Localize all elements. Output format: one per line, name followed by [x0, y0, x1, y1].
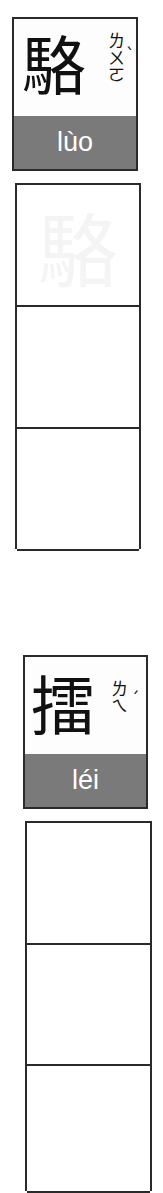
practice-cell[interactable] [17, 307, 139, 429]
character-card-1: 駱 ㄌ ㄨ ㄛ ˋ lùo [12, 17, 138, 171]
pinyin-label: léi [72, 765, 99, 796]
practice-grid-2 [25, 821, 152, 1191]
zhuyin-annotation: ㄌ ㄟ [111, 681, 128, 715]
zhuyin-annotation: ㄌ ㄨ ㄛ [108, 33, 125, 84]
practice-cell[interactable] [27, 1066, 150, 1193]
practice-grid-1: 駱 [15, 183, 141, 549]
hanzi-character: 擂 [31, 675, 95, 739]
character-area: 擂 ㄌ ㄟ ˊ [25, 657, 146, 757]
practice-cell[interactable] [27, 945, 150, 1066]
practice-cell[interactable] [27, 823, 150, 945]
character-area: 駱 ㄌ ㄨ ㄛ ˋ [14, 19, 136, 118]
practice-cell[interactable]: 駱 [17, 185, 139, 307]
ghost-trace-character: 駱 [17, 185, 139, 305]
hanzi-character: 駱 [22, 35, 86, 99]
pinyin-label: lùo [57, 127, 93, 158]
zhuyin-symbol: ㄟ [111, 698, 128, 715]
tone-mark: ˋ [126, 47, 135, 64]
character-card-2: 擂 ㄌ ㄟ ˊ léi [23, 655, 148, 809]
pinyin-band: lùo [14, 116, 136, 169]
practice-cell[interactable] [17, 429, 139, 551]
zhuyin-symbol: ㄛ [108, 67, 125, 84]
pinyin-band: léi [25, 754, 146, 807]
tone-mark: ˊ [131, 691, 140, 708]
